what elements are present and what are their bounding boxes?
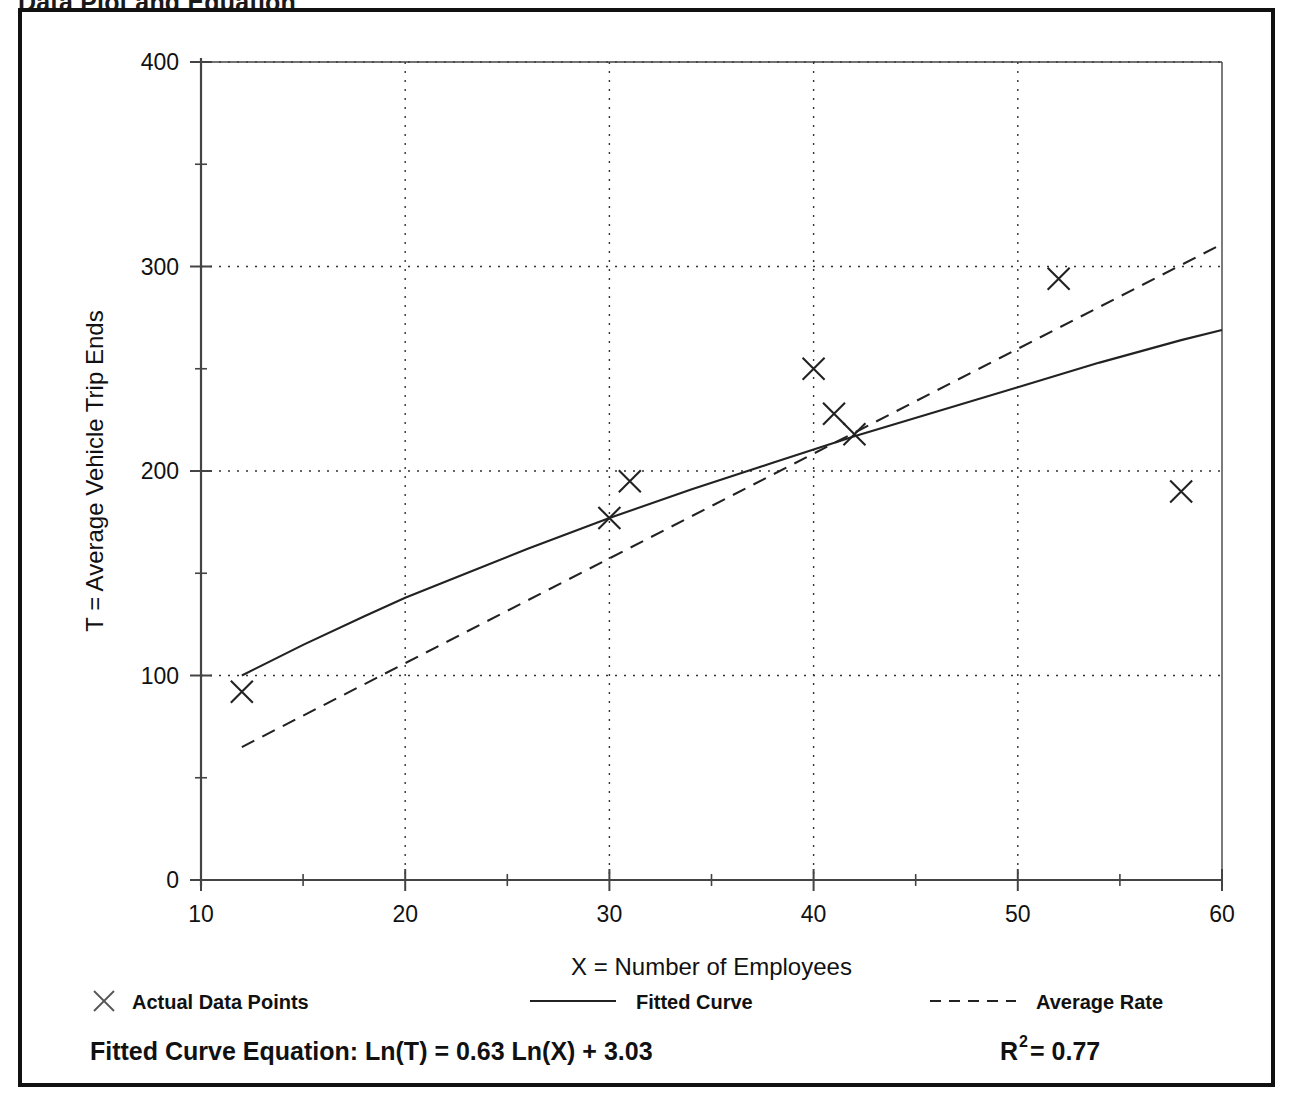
x-tick-label-10: 10 (188, 901, 214, 927)
data-point-2 (619, 470, 641, 492)
legend-label-fitted-curve: Fitted Curve (636, 991, 753, 1013)
r-squared-exponent: 2 (1019, 1033, 1028, 1050)
x-tick-label-60: 60 (1209, 901, 1235, 927)
data-point-3 (803, 358, 825, 380)
x-tick-label-30: 30 (597, 901, 623, 927)
average-rate-line (242, 244, 1222, 747)
fitted-curve-line (242, 330, 1222, 676)
y-axis-title: T = Average Vehicle Trip Ends (81, 310, 108, 631)
fitted-curve-equation: Fitted Curve Equation: Ln(T) = 0.63 Ln(X… (90, 1037, 653, 1065)
y-tick-label-100: 100 (141, 663, 179, 689)
legend-label-average-rate: Average Rate (1036, 991, 1163, 1013)
r-squared-value: = 0.77 (1030, 1037, 1100, 1065)
x-tick-label-50: 50 (1005, 901, 1031, 927)
data-point-7 (1170, 480, 1192, 502)
legend-marker-x (94, 991, 114, 1011)
data-point-0 (231, 681, 253, 703)
chart-canvas: 0100200300400102030405060X = Number of E… (0, 0, 1295, 1116)
y-tick-label-400: 400 (141, 49, 179, 75)
figure-root: Data Plot and Equation 01002003004001020… (0, 0, 1295, 1116)
x-tick-label-20: 20 (392, 901, 418, 927)
r-squared-base: R (1000, 1037, 1018, 1065)
x-axis-title: X = Number of Employees (571, 953, 852, 980)
data-point-6 (1048, 268, 1070, 290)
data-point-4 (823, 403, 845, 425)
legend-label-actual-data-points: Actual Data Points (132, 991, 309, 1013)
y-tick-label-200: 200 (141, 458, 179, 484)
y-tick-label-0: 0 (166, 867, 179, 893)
plot-area: 0100200300400102030405060X = Number of E… (81, 49, 1235, 1065)
x-tick-label-40: 40 (801, 901, 827, 927)
y-tick-label-300: 300 (141, 254, 179, 280)
